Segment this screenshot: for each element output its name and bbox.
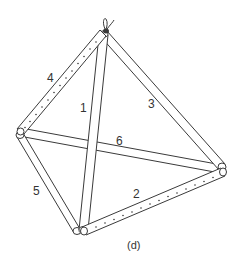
rod-5 — [16, 132, 81, 235]
wire-loop-hanger — [103, 19, 114, 34]
rod-4-label: 4 — [47, 71, 54, 85]
rod-2-label: 2 — [133, 187, 140, 201]
rod-2 — [81, 168, 227, 235]
rod-5-label: 5 — [33, 184, 40, 198]
figure-caption: (d) — [127, 239, 140, 251]
rod-6-label: 6 — [116, 134, 123, 148]
rod-3-label: 3 — [148, 97, 155, 111]
tetrahedron-figure: 4 1 3 6 5 2 (d) — [0, 0, 239, 262]
rod-1-label: 1 — [80, 101, 87, 115]
